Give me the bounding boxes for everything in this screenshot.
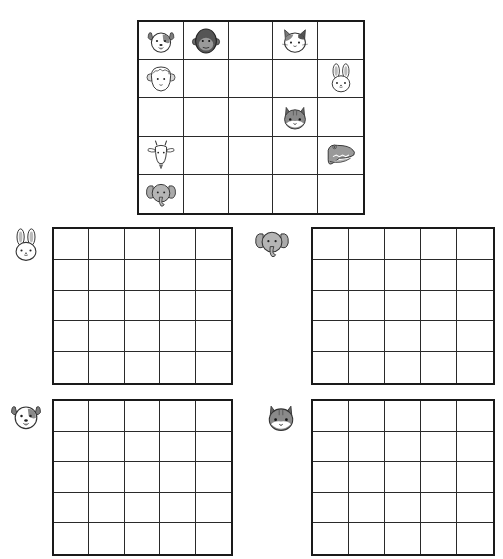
grid-cell-empty[interactable]	[421, 401, 457, 432]
grid-cell-empty[interactable]	[421, 493, 457, 524]
grid-cell-empty[interactable]	[89, 229, 124, 260]
grid-cell-empty[interactable]	[196, 462, 231, 493]
grid-cell-empty[interactable]	[160, 321, 195, 352]
grid-cell-empty[interactable]	[385, 260, 421, 291]
grid-cell-empty[interactable]	[125, 260, 160, 291]
grid-cell-empty[interactable]	[196, 432, 231, 463]
grid-cell-empty[interactable]	[421, 432, 457, 463]
grid-cell-empty[interactable]	[196, 291, 231, 322]
grid-cell-empty[interactable]	[54, 291, 89, 322]
grid-cell-empty[interactable]	[54, 462, 89, 493]
grid-cell-empty[interactable]	[89, 493, 124, 524]
grid-cell-empty[interactable]	[160, 291, 195, 322]
grid-cell-empty[interactable]	[160, 352, 195, 383]
grid-cell-empty[interactable]	[457, 401, 493, 432]
grid-cell-empty[interactable]	[160, 523, 195, 554]
grid-cell-empty[interactable]	[457, 229, 493, 260]
grid-cell-empty[interactable]	[349, 462, 385, 493]
grid-cell-empty[interactable]	[457, 432, 493, 463]
grid-cell-empty[interactable]	[54, 401, 89, 432]
grid-cell-empty[interactable]	[349, 321, 385, 352]
grid-cell-empty[interactable]	[125, 523, 160, 554]
grid-cell-empty[interactable]	[385, 352, 421, 383]
grid-cell-empty[interactable]	[421, 352, 457, 383]
grid-cell-empty[interactable]	[313, 432, 349, 463]
grid-cell-empty[interactable]	[54, 321, 89, 352]
grid-cell-empty[interactable]	[457, 462, 493, 493]
grid-cell-empty[interactable]	[349, 523, 385, 554]
grid-cell-empty[interactable]	[385, 229, 421, 260]
grid-cell-empty[interactable]	[125, 462, 160, 493]
grid-cell-empty[interactable]	[54, 523, 89, 554]
grid-cell-empty[interactable]	[125, 291, 160, 322]
grid-cell-empty[interactable]	[313, 260, 349, 291]
grid-cell-empty[interactable]	[385, 493, 421, 524]
grid-cell-empty[interactable]	[421, 260, 457, 291]
grid-cell-empty[interactable]	[125, 321, 160, 352]
grid-cell-empty[interactable]	[457, 352, 493, 383]
grid-cell-empty[interactable]	[421, 291, 457, 322]
grid-cell-empty[interactable]	[196, 523, 231, 554]
grid-cell-empty[interactable]	[457, 260, 493, 291]
grid-cell-empty[interactable]	[54, 493, 89, 524]
grid-cell-empty[interactable]	[125, 229, 160, 260]
grid-cell-empty[interactable]	[313, 493, 349, 524]
grid-cell-empty[interactable]	[349, 493, 385, 524]
grid-cell-empty[interactable]	[385, 401, 421, 432]
grid-cell-empty[interactable]	[125, 432, 160, 463]
grid-cell-empty[interactable]	[196, 260, 231, 291]
grid-cell-empty[interactable]	[313, 401, 349, 432]
grid-cell-empty[interactable]	[457, 523, 493, 554]
grid-cell-empty[interactable]	[349, 260, 385, 291]
grid-cell-empty[interactable]	[313, 229, 349, 260]
grid-cell-empty[interactable]	[89, 401, 124, 432]
grid-cell-empty[interactable]	[349, 432, 385, 463]
grid-cell-empty[interactable]	[89, 352, 124, 383]
grid-cell-empty[interactable]	[160, 432, 195, 463]
grid-cell-empty[interactable]	[313, 462, 349, 493]
grid-cell-empty[interactable]	[89, 291, 124, 322]
grid-cell-empty[interactable]	[313, 352, 349, 383]
grid-cell-empty[interactable]	[160, 462, 195, 493]
grid-cell-empty[interactable]	[89, 462, 124, 493]
grid-cell-empty[interactable]	[421, 229, 457, 260]
grid-cell-empty[interactable]	[385, 523, 421, 554]
grid-cell-empty[interactable]	[196, 493, 231, 524]
grid-cell-empty[interactable]	[160, 493, 195, 524]
grid-cell-empty[interactable]	[385, 321, 421, 352]
grid-cell-empty[interactable]	[385, 462, 421, 493]
grid-cell-empty[interactable]	[313, 321, 349, 352]
grid-cell-empty[interactable]	[196, 352, 231, 383]
grid-cell-empty[interactable]	[421, 321, 457, 352]
grid-cell-empty[interactable]	[196, 229, 231, 260]
grid-cell-empty[interactable]	[89, 260, 124, 291]
grid-cell-empty[interactable]	[349, 291, 385, 322]
grid-cell-empty[interactable]	[457, 493, 493, 524]
grid-cell-empty[interactable]	[125, 493, 160, 524]
grid-cell-empty[interactable]	[54, 260, 89, 291]
grid-cell-empty[interactable]	[196, 321, 231, 352]
grid-cell-empty[interactable]	[349, 229, 385, 260]
grid-cell-empty[interactable]	[160, 401, 195, 432]
grid-cell-empty[interactable]	[89, 432, 124, 463]
grid-cell-empty[interactable]	[349, 401, 385, 432]
grid-cell-empty[interactable]	[385, 432, 421, 463]
grid-cell-empty[interactable]	[160, 229, 195, 260]
grid-cell-empty[interactable]	[385, 291, 421, 322]
grid-cell-empty[interactable]	[457, 321, 493, 352]
grid-cell-empty[interactable]	[54, 352, 89, 383]
grid-cell-empty[interactable]	[89, 523, 124, 554]
grid-cell-empty[interactable]	[313, 291, 349, 322]
grid-cell-empty[interactable]	[54, 229, 89, 260]
grid-cell-empty[interactable]	[125, 352, 160, 383]
grid-cell-empty[interactable]	[421, 523, 457, 554]
grid-cell-empty[interactable]	[196, 401, 231, 432]
grid-cell-empty[interactable]	[89, 321, 124, 352]
grid-cell-empty[interactable]	[349, 352, 385, 383]
grid-cell-empty[interactable]	[160, 260, 195, 291]
grid-cell-empty[interactable]	[125, 401, 160, 432]
grid-cell-empty[interactable]	[313, 523, 349, 554]
grid-cell-empty[interactable]	[421, 462, 457, 493]
grid-cell-empty[interactable]	[457, 291, 493, 322]
grid-cell-empty[interactable]	[54, 432, 89, 463]
